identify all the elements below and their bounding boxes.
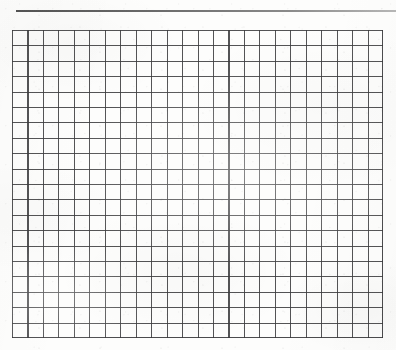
grid-right-border — [382, 30, 383, 338]
horizontal-rule — [16, 10, 396, 12]
graph-paper-grid — [12, 30, 383, 338]
grid-lines — [12, 30, 383, 338]
page-canvas — [0, 0, 396, 350]
grid-bottom-border — [12, 337, 383, 338]
